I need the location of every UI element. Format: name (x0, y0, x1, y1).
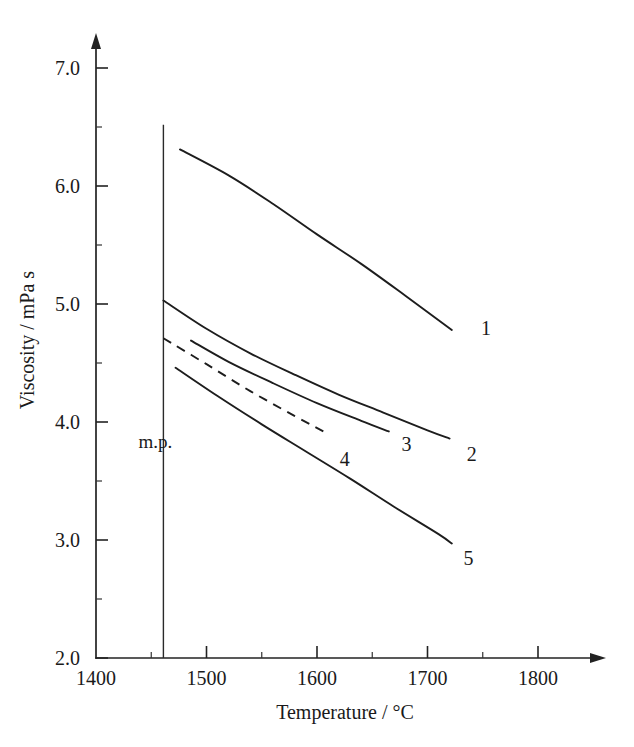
viscosity-temperature-chart: 2.03.04.05.06.07.0 14001500160017001800 … (0, 0, 634, 747)
y-tick-label: 3.0 (55, 529, 80, 551)
melting-point-label: m.p. (138, 431, 172, 452)
y-tick-label: 7.0 (55, 57, 80, 79)
x-tick-label: 1700 (408, 667, 448, 689)
series-label-2: 2 (467, 443, 477, 465)
y-tick-label: 4.0 (55, 411, 80, 433)
x-tick-label: 1500 (187, 667, 227, 689)
chart-canvas: 2.03.04.05.06.07.0 14001500160017001800 … (0, 0, 634, 747)
x-axis-title: Temperature / °C (276, 701, 414, 724)
series-label-4: 4 (340, 448, 350, 470)
y-tick-label: 2.0 (55, 647, 80, 669)
y-tick-label: 5.0 (55, 293, 80, 315)
x-tick-label: 1800 (518, 667, 558, 689)
series-label-1: 1 (481, 317, 491, 339)
y-axis-title: Viscosity / mPa s (16, 271, 39, 409)
chart-background (0, 0, 634, 747)
y-tick-label: 6.0 (55, 175, 80, 197)
series-label-5: 5 (463, 547, 473, 569)
x-tick-label: 1400 (76, 667, 116, 689)
series-label-3: 3 (402, 433, 412, 455)
x-tick-label: 1600 (297, 667, 337, 689)
